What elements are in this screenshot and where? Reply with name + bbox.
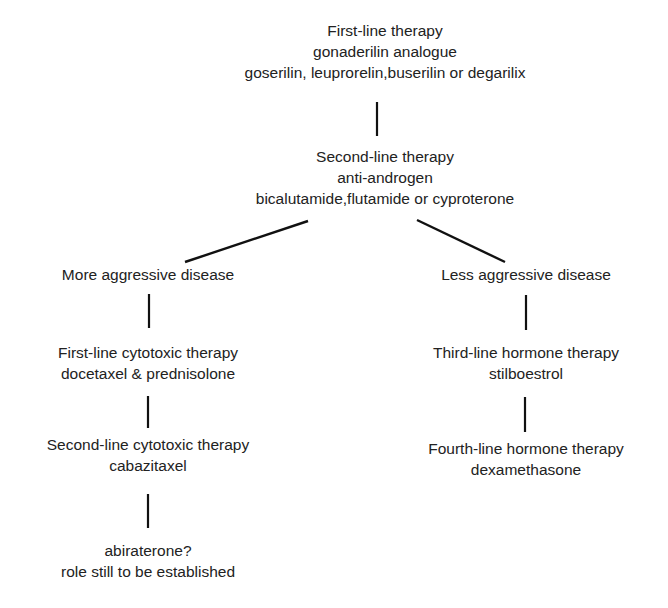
node-less-aggressive: Less aggressive disease — [441, 264, 611, 285]
connector-lines — [0, 0, 668, 608]
node-drugs: goserilin, leuprorelin,buserilin or dega… — [245, 62, 526, 83]
node-title: Second-line therapy — [256, 146, 514, 167]
node-title: Third-line hormone therapy — [433, 342, 619, 363]
node-subtitle: gonaderilin analogue — [245, 41, 526, 62]
node-second-line-therapy: Second-line therapy anti-androgen bicalu… — [256, 146, 514, 209]
node-title: First-line therapy — [245, 20, 526, 41]
node-drugs: docetaxel & prednisolone — [58, 363, 238, 384]
node-third-line-hormone: Third-line hormone therapy stilboestrol — [433, 342, 619, 384]
node-title: abiraterone? — [61, 540, 235, 561]
node-title: Second-line cytotoxic therapy — [47, 434, 249, 455]
node-note: role still to be established — [61, 561, 235, 582]
node-second-line-cytotoxic: Second-line cytotoxic therapy cabazitaxe… — [47, 434, 249, 476]
node-first-line-therapy: First-line therapy gonaderilin analogue … — [245, 20, 526, 83]
node-abiraterone: abiraterone? role still to be establishe… — [61, 540, 235, 582]
node-first-line-cytotoxic: First-line cytotoxic therapy docetaxel &… — [58, 342, 238, 384]
node-drugs: dexamethasone — [428, 459, 624, 480]
node-title: Fourth-line hormone therapy — [428, 438, 624, 459]
node-label: Less aggressive disease — [441, 264, 611, 285]
node-drugs: cabazitaxel — [47, 455, 249, 476]
node-label: More aggressive disease — [62, 264, 234, 285]
node-drugs: stilboestrol — [433, 363, 619, 384]
node-fourth-line-hormone: Fourth-line hormone therapy dexamethason… — [428, 438, 624, 480]
node-title: First-line cytotoxic therapy — [58, 342, 238, 363]
node-subtitle: anti-androgen — [256, 167, 514, 188]
node-drugs: bicalutamide,flutamide or cyproterone — [256, 188, 514, 209]
node-more-aggressive: More aggressive disease — [62, 264, 234, 285]
